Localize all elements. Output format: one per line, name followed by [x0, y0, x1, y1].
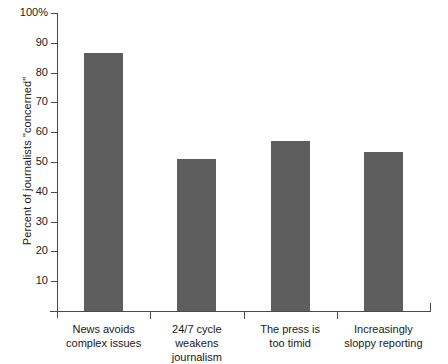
- bar: [84, 53, 123, 311]
- y-axis-tick-label-text: 60: [2, 126, 48, 137]
- y-axis-tick: [51, 192, 57, 193]
- y-axis-tick-label: 80: [0, 67, 48, 78]
- y-axis-tick-label: 90: [0, 37, 48, 48]
- x-axis-category-label: The press is too timid: [244, 322, 337, 350]
- y-axis-tick-label: 100%: [0, 7, 48, 18]
- y-axis-tick-label-text: 40: [2, 186, 48, 197]
- y-axis-tick-label-text: 90: [2, 37, 48, 48]
- x-axis-category-label: News avoids complex issues: [57, 322, 150, 350]
- y-axis-tick-label: 40: [0, 186, 48, 197]
- x-axis-tick: [244, 311, 245, 319]
- y-axis-tick: [51, 251, 57, 252]
- y-axis-tick: [51, 73, 57, 74]
- y-axis-tick-label-text: 10: [2, 275, 48, 286]
- y-axis-tick: [51, 222, 57, 223]
- y-axis-tick: [51, 43, 57, 44]
- y-axis-tick-label: 10: [0, 275, 48, 286]
- x-axis-line: [50, 311, 431, 312]
- y-axis-tick: [51, 102, 57, 103]
- y-axis-tick-label-text: 70: [2, 96, 48, 107]
- x-axis-end-tick: [430, 303, 431, 312]
- bar: [177, 159, 216, 311]
- y-axis-tick: [51, 13, 57, 14]
- x-axis-tick: [337, 311, 338, 319]
- y-axis-tick-label: 70: [0, 96, 48, 107]
- y-axis-tick-label-text: 50: [2, 156, 48, 167]
- bar: [271, 141, 310, 311]
- y-axis-tick-label: 50: [0, 156, 48, 167]
- bar: [364, 152, 403, 311]
- y-axis-tick: [51, 281, 57, 282]
- y-axis-tick-label-text: 20: [2, 245, 48, 256]
- y-axis-tick: [51, 162, 57, 163]
- x-axis-category-label: Increasingly sloppy reporting: [337, 322, 430, 350]
- y-axis-tick-label-text: 80: [2, 67, 48, 78]
- y-axis-line: [57, 13, 58, 318]
- x-axis-category-label: 24/7 cycle weakens journalism: [150, 322, 243, 364]
- y-axis-tick: [51, 132, 57, 133]
- y-axis-tick-label: 30: [0, 216, 48, 227]
- y-axis-tick-label: 20: [0, 245, 48, 256]
- x-axis-tick: [150, 311, 151, 319]
- y-axis-tick-label-text: 100%: [2, 7, 48, 18]
- y-axis-tick-label: 60: [0, 126, 48, 137]
- y-axis-tick-label-text: 30: [2, 216, 48, 227]
